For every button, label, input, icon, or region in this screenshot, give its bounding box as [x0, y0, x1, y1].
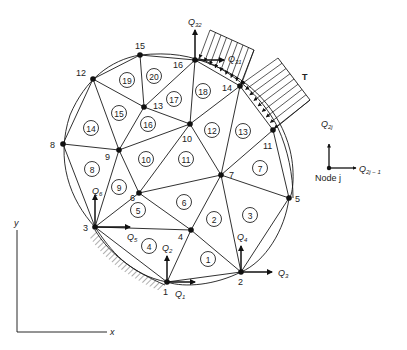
svg-text:20: 20: [149, 72, 159, 82]
svg-text:9: 9: [117, 183, 122, 193]
element-4: 4: [142, 239, 157, 254]
svg-text:7: 7: [229, 170, 234, 180]
dof-label-q1: Q1: [175, 289, 185, 300]
element-16: 16: [141, 117, 156, 132]
svg-text:3: 3: [83, 223, 88, 233]
element-10: 10: [139, 152, 154, 167]
node-8: 8: [50, 140, 66, 150]
element-3: 3: [243, 208, 258, 223]
svg-text:1: 1: [163, 287, 168, 297]
svg-text:6: 6: [130, 193, 135, 203]
dof-label-q3: Q3: [278, 268, 289, 279]
svg-text:11: 11: [182, 155, 191, 165]
dof-label-q6: Q6: [92, 186, 103, 197]
mesh-edge: [139, 175, 221, 193]
node-dof-legend: Node j Q2j Q2j − 1: [315, 119, 381, 183]
svg-text:7: 7: [258, 164, 263, 174]
svg-text:3: 3: [248, 211, 253, 221]
svg-text:5: 5: [295, 194, 300, 204]
traction-label: T: [302, 72, 308, 82]
element-15: 15: [112, 106, 127, 121]
element-20: 20: [147, 69, 162, 84]
y-axis-label: y: [13, 218, 19, 228]
svg-text:13: 13: [238, 127, 248, 137]
global-axes: y x: [13, 218, 115, 337]
element-14: 14: [84, 121, 99, 136]
element-8: 8: [85, 162, 100, 177]
svg-text:14: 14: [222, 83, 232, 93]
svg-text:18: 18: [198, 87, 208, 97]
element-5: 5: [131, 203, 146, 218]
element-9: 9: [112, 180, 127, 195]
svg-text:16: 16: [143, 120, 153, 130]
mesh-edge: [190, 60, 195, 124]
svg-text:12: 12: [76, 68, 86, 78]
element-18: 18: [196, 84, 211, 99]
svg-text:6: 6: [182, 198, 187, 208]
svg-text:16: 16: [173, 60, 183, 70]
svg-text:8: 8: [90, 165, 95, 175]
node-6: 6: [130, 190, 142, 203]
mesh-edge: [63, 144, 119, 150]
svg-text:11: 11: [263, 141, 272, 151]
traction-load: T: [200, 30, 311, 130]
svg-text:10: 10: [141, 155, 151, 165]
dof-label-q2: Q2: [162, 243, 173, 254]
legend-node-label: Node j: [315, 173, 341, 183]
dof-label-q32: Q32: [188, 17, 202, 28]
svg-text:10: 10: [182, 134, 192, 144]
svg-text:19: 19: [122, 76, 132, 86]
element-13: 13: [236, 124, 251, 139]
mesh-edge: [140, 55, 144, 107]
svg-text:1: 1: [206, 255, 211, 265]
x-axis-label: x: [109, 327, 115, 337]
element-7: 7: [253, 161, 268, 176]
element-17: 17: [167, 92, 182, 107]
svg-text:5: 5: [136, 206, 141, 216]
node-7: 7: [218, 170, 234, 180]
svg-text:4: 4: [178, 232, 183, 242]
mesh-edge: [93, 79, 144, 107]
legend-q-vertical: Q2j: [321, 119, 333, 130]
element-12: 12: [205, 123, 220, 138]
svg-text:9: 9: [105, 152, 110, 162]
element-1: 1: [201, 252, 216, 267]
svg-text:13: 13: [153, 101, 163, 111]
dof-label-q5: Q5: [127, 232, 138, 243]
svg-text:2: 2: [238, 277, 243, 287]
svg-text:14: 14: [86, 124, 96, 134]
dof-label-q4: Q4: [237, 232, 248, 243]
mesh-edge: [63, 144, 95, 227]
svg-text:12: 12: [207, 126, 217, 136]
legend-q-horizontal: Q2j − 1: [359, 164, 381, 175]
svg-text:2: 2: [212, 215, 217, 225]
element-19: 19: [120, 73, 135, 88]
svg-text:17: 17: [169, 95, 179, 105]
node-13: 13: [141, 101, 163, 111]
node-11: 11: [263, 127, 276, 151]
fe-mesh-diagram: 1234567891011121314151617181920 12345678…: [0, 0, 407, 350]
svg-text:8: 8: [50, 140, 55, 150]
svg-text:15: 15: [114, 109, 124, 119]
svg-text:15: 15: [135, 41, 145, 51]
node-12: 12: [76, 68, 96, 82]
mesh-edge: [273, 130, 289, 198]
svg-text:4: 4: [147, 242, 152, 252]
element-6: 6: [177, 195, 192, 210]
mesh-edge: [140, 55, 195, 60]
element-11: 11: [179, 152, 194, 167]
element-2: 2: [207, 212, 222, 227]
